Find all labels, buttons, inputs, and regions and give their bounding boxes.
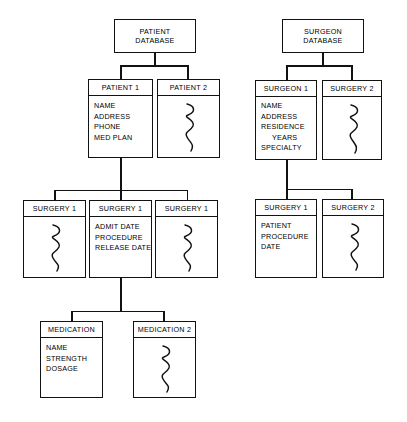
field: ADDRESS <box>94 112 152 123</box>
node-surgeon-database-title: SURGEON DATABASE <box>283 24 363 48</box>
node-surgery-right-top[interactable]: SURGERY 2 <box>322 80 382 160</box>
connector-to-medication-2 <box>163 311 165 322</box>
field: MED PLAN <box>94 133 152 144</box>
node-surgery-right-1[interactable]: SURGERY 1 PATIENT PROCEDURE DATE <box>255 199 317 278</box>
node-surgery-left-3[interactable]: SURGERY 1 <box>155 200 218 278</box>
connector-to-surgery-left-1 <box>54 190 56 201</box>
database-hierarchy-diagram: PATIENT DATABASE PATIENT 1 NAME ADDRESS … <box>0 0 407 422</box>
node-surgery-right-1-fields: PATIENT PROCEDURE DATE <box>256 216 316 277</box>
connector-surgeon-bus <box>286 65 353 67</box>
node-surgeon-1-title: SURGEON 1 <box>256 81 316 97</box>
node-patient-2[interactable]: PATIENT 2 <box>157 79 220 158</box>
node-surgery-right-2[interactable]: SURGERY 2 <box>322 199 384 278</box>
node-surgery-left-2-fields: ADMIT DATE PROCEDURE RELEASE DATE <box>90 217 151 277</box>
node-surgery-left-1-title: SURGERY 1 <box>24 201 85 217</box>
field: YEARS <box>261 133 316 144</box>
squiggle-icon <box>134 338 195 399</box>
squiggle-icon <box>156 217 217 278</box>
field: PROCEDURE <box>261 232 316 243</box>
field: PHONE <box>94 122 152 133</box>
connector-patient-bus <box>120 65 189 67</box>
node-patient-1-fields: NAME ADDRESS PHONE MED PLAN <box>89 96 152 157</box>
connector-to-medication-1 <box>71 311 73 322</box>
field: ADDRESS <box>261 112 316 123</box>
node-surgery-right-top-title: SURGERY 2 <box>323 81 381 97</box>
field: DOSAGE <box>46 364 102 375</box>
node-surgeon-1-fields: NAME ADDRESS RESIDENCE YEARS SPECIALTY <box>256 97 316 159</box>
connector-to-patient-1 <box>120 65 122 79</box>
node-medication-1-fields: NAME STRENGTH DOSAGE <box>41 338 102 397</box>
squiggle-icon <box>158 96 219 158</box>
connector-to-surgery-right-top <box>351 65 353 80</box>
node-surgery-left-2-title: SURGERY 1 <box>90 201 151 217</box>
node-surgery-left-3-title: SURGERY 1 <box>156 201 217 217</box>
connector-to-surgery-left-3 <box>187 190 189 201</box>
connector-medication-bus <box>71 311 165 313</box>
field: ADMIT DATE <box>95 222 151 233</box>
node-medication-1-title: MEDICATION <box>41 322 102 338</box>
squiggle-icon <box>323 216 383 277</box>
field: NAME <box>261 101 316 112</box>
node-medication-2[interactable]: MEDICATION 2 <box>133 321 196 398</box>
connector-to-surgeon-1 <box>286 65 288 80</box>
connector-to-surgery-right-1 <box>286 189 288 200</box>
node-patient-2-title: PATIENT 2 <box>158 80 219 96</box>
node-surgeon-1[interactable]: SURGEON 1 NAME ADDRESS RESIDENCE YEARS S… <box>255 80 317 160</box>
connector-surgeon-db-down <box>322 53 324 66</box>
field: DATE <box>261 242 316 253</box>
node-surgery-right-2-title: SURGERY 2 <box>323 200 383 216</box>
node-patient-database[interactable]: PATIENT DATABASE <box>114 19 196 53</box>
connector-patient1-down <box>120 158 122 190</box>
field: RESIDENCE <box>261 122 316 133</box>
node-patient-1-title: PATIENT 1 <box>89 80 152 96</box>
field: PROCEDURE <box>95 233 151 244</box>
node-surgery-left-2[interactable]: SURGERY 1 ADMIT DATE PROCEDURE RELEASE D… <box>89 200 152 278</box>
node-surgery-right-1-title: SURGERY 1 <box>256 200 316 216</box>
squiggle-icon <box>323 97 381 160</box>
connector-surgery-bus-right <box>286 189 353 191</box>
node-surgeon-database[interactable]: SURGEON DATABASE <box>282 19 364 53</box>
node-medication-1[interactable]: MEDICATION NAME STRENGTH DOSAGE <box>40 321 103 398</box>
node-surgery-left-1[interactable]: SURGERY 1 <box>23 200 86 278</box>
connector-surgery-down <box>120 278 122 311</box>
field: NAME <box>46 343 102 354</box>
connector-patient-db-down <box>154 53 156 66</box>
connector-surgeon1-down <box>286 160 288 190</box>
connector-to-surgery-left-2 <box>120 190 122 201</box>
field: PATIENT <box>261 221 316 232</box>
field: NAME <box>94 101 152 112</box>
node-patient-database-title: PATIENT DATABASE <box>115 24 195 48</box>
connector-to-surgery-right-2 <box>351 189 353 200</box>
connector-to-patient-2 <box>187 65 189 79</box>
squiggle-icon <box>24 217 85 278</box>
node-patient-1[interactable]: PATIENT 1 NAME ADDRESS PHONE MED PLAN <box>88 79 153 158</box>
field: STRENGTH <box>46 354 102 365</box>
field: RELEASE DATE <box>95 243 151 254</box>
field: SPECIALTY <box>261 143 316 154</box>
node-medication-2-title: MEDICATION 2 <box>134 322 195 338</box>
